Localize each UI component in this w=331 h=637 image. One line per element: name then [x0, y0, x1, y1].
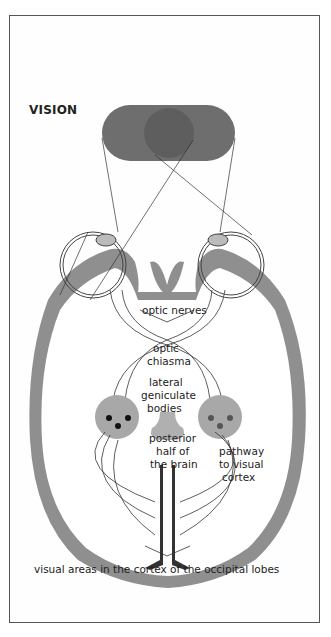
label-lgb-3: bodies	[147, 402, 182, 414]
label-posterior-1: posterior	[149, 432, 197, 444]
label-visual-areas: visual areas in the cortex of the occipi…	[34, 563, 279, 575]
label-posterior-3: the brain	[150, 458, 198, 470]
label-lgb-1: lateral	[149, 376, 183, 388]
label-lgb-2: geniculate	[141, 389, 196, 401]
vision-diagram: optic nerves optic chiasma lateral genic…	[0, 0, 331, 637]
visual-field	[102, 105, 235, 161]
label-pathway-3: cortex	[222, 471, 255, 483]
label-optic-chiasma-2: chiasma	[147, 355, 191, 367]
label-pathway-2: to visual	[219, 458, 264, 470]
label-optic-chiasma-1: optic	[153, 342, 179, 354]
label-optic-nerves: optic nerves	[142, 304, 207, 316]
brain	[29, 249, 305, 588]
label-posterior-2: half of	[156, 445, 189, 457]
label-pathway-1: pathway	[219, 445, 264, 457]
